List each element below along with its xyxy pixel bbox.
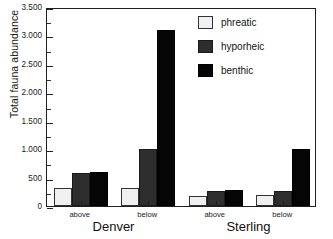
y-axis-tick-label: 1.500 [2, 118, 42, 126]
x-axis-tick-label: below [252, 210, 312, 219]
bar-benthic-above-sterling [225, 190, 243, 206]
group-label-sterling: Sterling [189, 219, 309, 234]
y-axis-tick [47, 208, 53, 209]
y-axis-tick-label: 2.500 [2, 61, 42, 69]
y-axis-minor-tick [47, 52, 51, 53]
legend-item-benthic: benthic [198, 61, 310, 80]
x-axis-tick [216, 201, 217, 206]
y-axis-tick [47, 94, 53, 95]
y-axis-minor-tick [47, 194, 51, 195]
x-axis-tick-label: above [185, 210, 245, 219]
bar-phreatic-below-denver [121, 188, 139, 206]
bar-benthic-below-sterling [292, 149, 310, 206]
bar-benthic-above-denver [90, 172, 108, 206]
y-axis-tick-label: 0 [2, 203, 42, 211]
y-axis-tick [47, 123, 53, 124]
y-axis-minor-tick [47, 165, 51, 166]
bar-phreatic-above-sterling [189, 196, 207, 206]
legend-label: hyporheic [221, 41, 264, 52]
chart-figure: Total fauna abundance 05001.0001.5002.00… [0, 0, 333, 239]
bar-hyporheic-below-denver [139, 149, 157, 206]
legend-swatch-hyporheic-icon [198, 40, 213, 53]
legend-swatch-benthic-icon [198, 64, 213, 77]
legend: phreatichyporheicbenthic [198, 13, 310, 85]
y-axis-tick-label: 1.000 [2, 146, 42, 154]
bar-phreatic-above-denver [54, 188, 72, 206]
y-axis-tick [47, 9, 53, 10]
y-axis-minor-tick [47, 23, 51, 24]
y-axis-minor-tick [47, 80, 51, 81]
y-axis-tick-label: 500 [2, 175, 42, 183]
bar-benthic-below-denver [157, 30, 175, 206]
y-axis-minor-tick [47, 109, 51, 110]
group-label-denver: Denver [54, 219, 174, 234]
x-axis-tick-label: above [50, 210, 110, 219]
y-axis-minor-tick [47, 137, 51, 138]
y-axis-tick-label: 3.500 [2, 4, 42, 12]
x-axis-tick-label: below [117, 210, 177, 219]
y-axis-tick [47, 37, 53, 38]
y-axis-tick [47, 66, 53, 67]
y-axis-tick-label: 3.000 [2, 32, 42, 40]
legend-item-phreatic: phreatic [198, 13, 310, 32]
x-axis-tick [81, 201, 82, 206]
y-axis-tick [47, 180, 53, 181]
legend-swatch-phreatic-icon [198, 16, 213, 29]
legend-label: phreatic [221, 17, 257, 28]
legend-label: benthic [221, 65, 253, 76]
y-axis-tick-label: 2.000 [2, 89, 42, 97]
y-axis-tick [47, 151, 53, 152]
x-axis-tick [148, 201, 149, 206]
bar-phreatic-below-sterling [256, 195, 274, 206]
x-axis-tick [283, 201, 284, 206]
legend-item-hyporheic: hyporheic [198, 37, 310, 56]
